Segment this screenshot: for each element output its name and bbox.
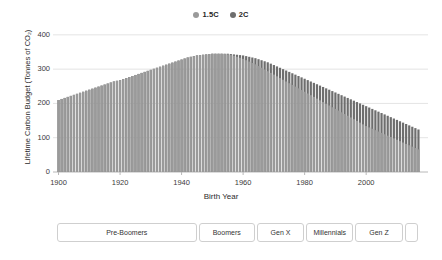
chart-bar bbox=[131, 76, 133, 172]
chart-bar bbox=[384, 134, 386, 172]
chart-bar bbox=[104, 85, 106, 172]
x-tick-label: 1940 bbox=[162, 178, 202, 187]
chart-bar bbox=[174, 62, 176, 172]
chart-bar bbox=[224, 54, 226, 172]
chart-bar bbox=[97, 87, 99, 172]
chart-bar bbox=[353, 119, 355, 172]
generation-box-millennials[interactable]: Millennials bbox=[306, 223, 353, 242]
chart-bar bbox=[300, 90, 302, 172]
generation-box-gen-z[interactable]: Gen Z bbox=[355, 223, 402, 242]
y-tick-label: 200 bbox=[22, 98, 50, 107]
chart-bar bbox=[260, 68, 262, 172]
chart-bar bbox=[368, 127, 370, 172]
chart-bar bbox=[140, 73, 142, 172]
chart-bar bbox=[264, 69, 266, 172]
chart-bar bbox=[196, 55, 198, 172]
chart-bar bbox=[119, 80, 121, 172]
chart-bar bbox=[122, 79, 124, 172]
chart-bar bbox=[294, 87, 296, 172]
chart-bar bbox=[193, 56, 195, 172]
chart-bar bbox=[110, 83, 112, 172]
chart-bar bbox=[156, 68, 158, 172]
chart-bar bbox=[307, 93, 309, 172]
chart-bar bbox=[344, 114, 346, 172]
chart-bar bbox=[390, 137, 392, 172]
chart-bar bbox=[116, 81, 118, 172]
chart-bar bbox=[337, 111, 339, 172]
x-tick-label: 1960 bbox=[223, 178, 263, 187]
generation-box-unlabeled[interactable] bbox=[405, 223, 418, 242]
chart-bar bbox=[113, 81, 115, 172]
generation-box-label: Gen X bbox=[271, 229, 291, 236]
carbon-budget-chart: 1.5C 2C Lifetime Carbon Budget (Tonnes o… bbox=[0, 0, 442, 260]
chart-bar bbox=[180, 60, 182, 172]
chart-bar bbox=[208, 54, 210, 172]
chart-bar bbox=[61, 99, 63, 172]
chart-bar bbox=[217, 54, 219, 172]
chart-bar bbox=[331, 107, 333, 172]
chart-bar bbox=[171, 63, 173, 172]
chart-bar bbox=[254, 64, 256, 172]
chart-bar bbox=[165, 65, 167, 172]
chart-bar bbox=[205, 54, 207, 172]
chart-bar bbox=[414, 148, 416, 172]
chart-bar bbox=[405, 144, 407, 172]
y-tick-label: 0 bbox=[22, 167, 50, 176]
chart-bar bbox=[325, 104, 327, 172]
y-tick-label: 300 bbox=[22, 64, 50, 73]
chart-bar bbox=[73, 95, 75, 172]
chart-bar bbox=[297, 88, 299, 172]
chart-bar bbox=[230, 55, 232, 172]
chart-bar bbox=[310, 95, 312, 172]
chart-bar bbox=[214, 54, 216, 172]
chart-bar bbox=[88, 90, 90, 172]
chart-bar bbox=[362, 124, 364, 172]
chart-bar bbox=[257, 66, 259, 172]
chart-bar bbox=[248, 62, 250, 172]
chart-bar bbox=[211, 54, 213, 172]
chart-bar bbox=[276, 76, 278, 172]
generation-box-label: Millennials bbox=[313, 229, 346, 236]
chart-bar bbox=[356, 121, 358, 172]
chart-bar bbox=[67, 97, 69, 172]
chart-bar bbox=[236, 57, 238, 172]
chart-bar bbox=[377, 132, 379, 172]
chart-bar bbox=[147, 71, 149, 172]
chart-bar bbox=[137, 74, 139, 172]
generation-box-pre-boomers[interactable]: Pre-Boomers bbox=[57, 223, 197, 242]
chart-bar bbox=[245, 60, 247, 172]
chart-bar bbox=[227, 54, 229, 172]
chart-bar bbox=[288, 83, 290, 172]
chart-bar bbox=[239, 58, 241, 172]
x-axis-title: Birth Year bbox=[0, 192, 442, 201]
x-tick-label: 1900 bbox=[39, 178, 79, 187]
chart-bar bbox=[371, 129, 373, 172]
generation-box-boomers[interactable]: Boomers bbox=[199, 223, 255, 242]
chart-bar bbox=[350, 117, 352, 172]
chart-bar bbox=[94, 88, 96, 172]
chart-bar bbox=[408, 145, 410, 172]
chart-bar bbox=[334, 109, 336, 172]
chart-bar bbox=[402, 143, 404, 172]
x-tick-label: 1980 bbox=[285, 178, 325, 187]
chart-bar bbox=[85, 91, 87, 172]
chart-bar bbox=[316, 99, 318, 172]
x-tick-label: 1920 bbox=[100, 178, 140, 187]
chart-bar bbox=[82, 92, 84, 172]
chart-bar bbox=[359, 123, 361, 172]
generation-box-gen-x[interactable]: Gen X bbox=[257, 223, 304, 242]
chart-bar bbox=[57, 100, 59, 172]
chart-bar bbox=[76, 94, 78, 172]
chart-bar bbox=[411, 147, 413, 172]
chart-bar bbox=[159, 67, 161, 172]
chart-bar bbox=[396, 140, 398, 172]
chart-bar bbox=[125, 78, 127, 172]
chart-bar bbox=[313, 97, 315, 172]
chart-bar bbox=[282, 80, 284, 172]
chart-bar bbox=[144, 72, 146, 172]
chart-bar bbox=[134, 75, 136, 172]
chart-bar bbox=[70, 96, 72, 172]
chart-bar bbox=[251, 63, 253, 172]
chart-bar bbox=[273, 75, 275, 172]
chart-bar bbox=[190, 57, 192, 172]
